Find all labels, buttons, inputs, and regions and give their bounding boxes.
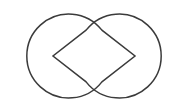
pacman-pair-illustration	[0, 0, 189, 111]
figure-canvas: Two opposing pac-man shapes	[0, 0, 189, 111]
